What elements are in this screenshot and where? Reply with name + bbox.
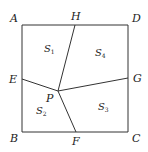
label-B: B (9, 132, 18, 145)
region-S2: S2 (36, 105, 47, 117)
label-A: A (9, 12, 18, 25)
region-S1: S1 (44, 43, 55, 55)
label-D: D (131, 12, 141, 25)
label-E: E (8, 73, 17, 86)
label-P: P (45, 92, 54, 105)
segment-PE (22, 79, 58, 91)
region-S4: S4 (95, 47, 106, 59)
label-H: H (70, 10, 81, 23)
label-F: F (71, 135, 80, 148)
geometry-diagram: A H D E G P B F C S1 S4 S2 S3 (0, 0, 148, 152)
region-S3: S3 (98, 101, 109, 113)
segment-PH (58, 25, 75, 91)
label-G: G (133, 72, 142, 85)
segment-PG (58, 78, 128, 91)
segment-PF (58, 91, 76, 132)
label-C: C (132, 132, 141, 145)
